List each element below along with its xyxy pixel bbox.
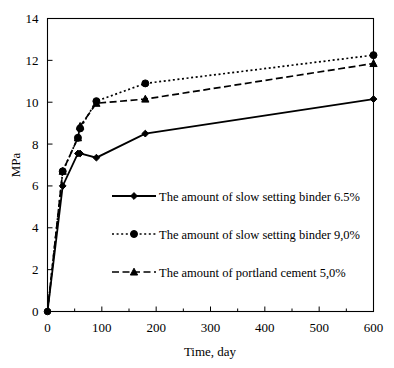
legend-label-2: The amount of portland cement 5,0% bbox=[159, 266, 346, 280]
legend-item-2: The amount of portland cement 5,0% bbox=[112, 266, 346, 280]
x-axis-title: Time, day bbox=[184, 344, 237, 359]
legend-item-0: The amount of slow setting binder 6.5% bbox=[112, 190, 360, 204]
y-axis-tick-labels: 02468101214 bbox=[26, 11, 40, 319]
diamond-data-point bbox=[93, 154, 100, 161]
legend-item-1: The amount of slow setting binder 9,0% bbox=[112, 228, 360, 242]
x-tick-label-400: 400 bbox=[255, 320, 275, 335]
y-tick-label-4: 4 bbox=[32, 220, 39, 235]
chart-legend: The amount of slow setting binder 6.5%Th… bbox=[112, 190, 360, 280]
y-tick-label-2: 2 bbox=[32, 262, 39, 277]
diamond-marker bbox=[131, 193, 138, 200]
circle-marker bbox=[131, 231, 138, 238]
y-tick-label-0: 0 bbox=[32, 304, 39, 319]
circle-data-point bbox=[142, 80, 149, 87]
x-axis-tick-labels: 0100200300400500600 bbox=[44, 320, 383, 335]
diamond-data-point bbox=[142, 130, 149, 137]
y-tick-label-8: 8 bbox=[32, 137, 39, 152]
legend-label-1: The amount of slow setting binder 9,0% bbox=[159, 228, 360, 242]
line-chart: 02468101214 0100200300400500600 Time, da… bbox=[0, 0, 394, 368]
series-line-0 bbox=[48, 99, 374, 311]
y-tick-label-10: 10 bbox=[26, 95, 39, 110]
series-0 bbox=[44, 96, 377, 315]
x-tick-label-100: 100 bbox=[92, 320, 112, 335]
chart-container: 02468101214 0100200300400500600 Time, da… bbox=[0, 0, 394, 368]
diamond-data-point bbox=[370, 96, 377, 103]
y-axis-title: MPa bbox=[8, 152, 23, 177]
x-tick-label-300: 300 bbox=[201, 320, 221, 335]
y-tick-label-6: 6 bbox=[32, 178, 39, 193]
x-tick-label-0: 0 bbox=[44, 320, 51, 335]
y-tick-label-12: 12 bbox=[26, 53, 39, 68]
x-tick-label-600: 600 bbox=[364, 320, 384, 335]
y-tick-label-14: 14 bbox=[26, 11, 40, 26]
circle-data-point bbox=[370, 52, 377, 59]
x-axis-ticks bbox=[48, 307, 374, 312]
x-tick-label-500: 500 bbox=[309, 320, 329, 335]
legend-label-0: The amount of slow setting binder 6.5% bbox=[159, 190, 360, 204]
x-tick-label-200: 200 bbox=[146, 320, 166, 335]
